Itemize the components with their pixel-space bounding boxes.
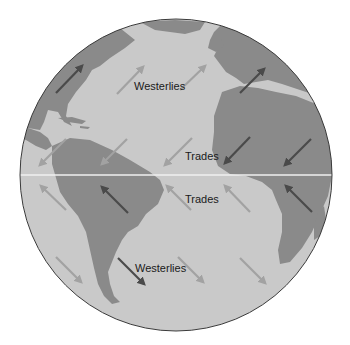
wind-globe-diagram: Westerlies Trades Trades Westerlies xyxy=(0,0,350,345)
label-trades-north: Trades xyxy=(185,150,219,162)
label-trades-south: Trades xyxy=(185,193,219,205)
label-westerlies-north: Westerlies xyxy=(134,80,186,92)
label-westerlies-south: Westerlies xyxy=(135,262,187,274)
